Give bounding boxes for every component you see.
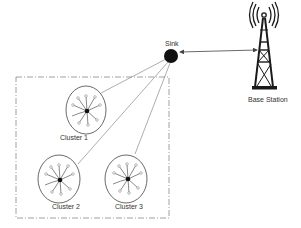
cluster-1-label: Cluster 1 xyxy=(60,134,88,141)
base-station-label: Base Station xyxy=(248,96,288,103)
sink-node xyxy=(164,49,178,63)
cluster-2-label: Cluster 2 xyxy=(52,203,80,210)
cluster-1 xyxy=(66,86,106,134)
link-sink-basestation xyxy=(180,50,257,52)
base-station-tower-icon xyxy=(250,2,279,90)
cluster-3 xyxy=(105,155,147,203)
link-cluster1-sink xyxy=(101,59,166,93)
network-diagram xyxy=(0,0,301,228)
sink-label: Sink xyxy=(165,40,179,47)
cluster-3-label: Cluster 3 xyxy=(115,203,143,210)
cluster-2 xyxy=(38,155,80,203)
